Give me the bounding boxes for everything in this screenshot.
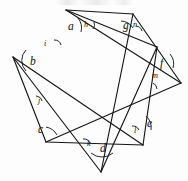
star-chord-11 <box>13 57 143 145</box>
star-chord-5 <box>13 57 101 172</box>
label-angle-g: g <box>123 19 129 32</box>
label-angle-n: n <box>133 20 137 29</box>
label-angle-k: k <box>87 139 91 148</box>
geometry-figure: a b c d e f g h i j k l m n <box>0 0 188 181</box>
star-polygon-drawing: a b c d e f g h i j k l m n <box>0 0 188 181</box>
arc-angle-m <box>153 83 157 89</box>
label-angle-d: d <box>100 142 106 154</box>
label-angle-i: i <box>44 39 47 48</box>
arc-angle-c <box>46 127 57 135</box>
label-angle-e: e <box>147 117 152 129</box>
label-angle-b: b <box>30 55 36 67</box>
label-angle-a: a <box>68 20 74 32</box>
label-angle-c: c <box>38 123 43 135</box>
label-angle-h: h <box>84 20 88 29</box>
arc-angle-b <box>22 50 26 71</box>
star-chord-6 <box>101 14 133 172</box>
arc-angle-f <box>170 54 174 68</box>
star-outline-lines <box>13 10 181 172</box>
label-angle-m: m <box>152 71 158 80</box>
arc-angle-i <box>54 40 61 45</box>
star-chord-9 <box>46 83 181 142</box>
star-chord-3 <box>46 142 143 145</box>
star-chord-7 <box>66 10 133 14</box>
